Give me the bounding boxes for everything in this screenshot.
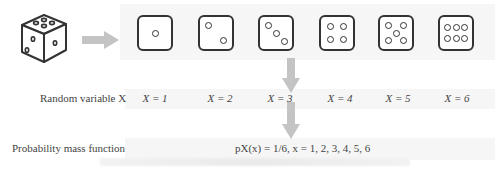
pip-icon [340,23,347,30]
arrow-down-icon [281,58,301,94]
x-value-1: X = 1 [142,92,167,104]
pip-icon [205,22,212,29]
pip-icon [220,37,227,44]
pip-icon [461,35,468,42]
pip-icon [385,37,392,44]
pmf-label: Probability mass function [12,142,125,154]
die-face-5 [378,15,414,51]
die-face-1 [137,15,173,51]
x-value-2: X = 2 [207,92,232,104]
pip-icon [393,30,400,37]
pmf-formula: pX(x) = 1/6, x = 1, 2, 3, 4, 5, 6 [235,142,370,154]
x-value-5: X = 5 [385,92,410,104]
arrow-right-icon [82,30,120,50]
pip-icon [453,35,460,42]
pip-icon [273,30,280,37]
pip-icon [400,37,407,44]
pip-icon [152,30,159,37]
pip-icon [400,22,407,29]
faded-caption [100,158,410,166]
pip-icon [340,36,347,43]
pip-icon [385,22,392,29]
x-value-3: X = 3 [267,92,292,104]
pip-icon [444,35,451,42]
arrow-down-icon [281,102,301,140]
random-variable-band [125,89,495,109]
pip-icon [265,22,272,29]
pip-icon [453,24,460,31]
random-variable-label: Random variable X [40,92,126,104]
x-value-4: X = 4 [327,92,352,104]
pip-icon [327,23,334,30]
pip-icon [444,24,451,31]
die-face-6 [438,15,474,51]
die-3d-icon [16,10,72,66]
pip-icon [461,24,468,31]
die-face-3 [258,15,294,51]
die-face-2 [198,15,234,51]
pip-icon [281,38,288,45]
die-face-4 [319,15,355,51]
x-value-6: X = 6 [444,92,469,104]
pip-icon [327,36,334,43]
